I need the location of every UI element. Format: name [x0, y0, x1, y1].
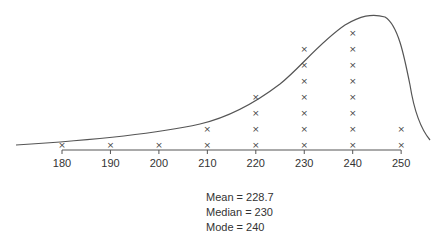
data-mark: ×	[397, 140, 405, 150]
data-mark: ×	[349, 140, 357, 150]
x-tick-label: 210	[198, 157, 216, 169]
x-tick-label: 240	[344, 157, 362, 169]
data-mark: ×	[107, 140, 115, 150]
data-mark: ×	[349, 76, 357, 86]
x-axis-ticks	[62, 150, 401, 154]
data-mark: ×	[349, 124, 357, 134]
x-tick-label: 220	[247, 157, 265, 169]
data-mark: ×	[300, 108, 308, 118]
data-mark: ×	[300, 60, 308, 70]
data-mark: ×	[252, 108, 260, 118]
data-mark: ×	[349, 60, 357, 70]
x-tick-label: 250	[392, 157, 410, 169]
data-mark: ×	[300, 124, 308, 134]
summary-statistics: Mean = 228.7 Median = 230 Mode = 240	[206, 190, 274, 235]
data-mark: ×	[204, 140, 212, 150]
data-mark: ×	[155, 140, 163, 150]
data-mark: ×	[349, 108, 357, 118]
data-mark: ×	[252, 124, 260, 134]
data-mark: ×	[252, 92, 260, 102]
data-mark: ×	[349, 44, 357, 54]
mode-label: Mode = 240	[206, 220, 274, 235]
x-tick-label: 180	[53, 157, 71, 169]
distribution-curve	[16, 15, 430, 145]
median-label: Median = 230	[206, 205, 274, 220]
data-mark: ×	[397, 124, 405, 134]
x-axis-tick-labels: 180190200210220230240250	[53, 157, 411, 169]
data-mark: ×	[300, 76, 308, 86]
mean-label: Mean = 228.7	[206, 190, 274, 205]
data-mark: ×	[349, 28, 357, 38]
x-tick-label: 230	[295, 157, 313, 169]
data-mark: ×	[58, 140, 66, 150]
data-mark: ×	[252, 140, 260, 150]
data-mark: ×	[204, 124, 212, 134]
data-mark: ×	[349, 92, 357, 102]
data-mark: ×	[300, 92, 308, 102]
data-mark: ×	[300, 44, 308, 54]
x-tick-label: 190	[101, 157, 119, 169]
data-marks: ××××××××××××××××××××××××××	[58, 28, 405, 150]
x-tick-label: 200	[150, 157, 168, 169]
data-mark: ×	[300, 140, 308, 150]
